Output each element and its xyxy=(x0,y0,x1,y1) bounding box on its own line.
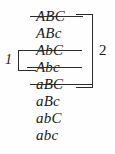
bracket-right-label: 2 xyxy=(99,42,107,59)
row-label: abc xyxy=(36,127,58,144)
table-row: abC xyxy=(0,110,115,127)
bracket-right-top-arm xyxy=(76,14,93,15)
bracket-right xyxy=(76,14,93,88)
enumeration-figure: ABC ABc AbC Abc aBC aBc abC abc 1 xyxy=(0,0,115,154)
bracket-left xyxy=(18,50,36,71)
row-label: abC xyxy=(36,110,62,127)
table-row: aBC xyxy=(0,76,115,93)
bracket-left-top-arm xyxy=(18,50,36,51)
bracket-left-label: 1 xyxy=(5,52,12,68)
row-label: ABc xyxy=(36,25,62,42)
row-label: aBc xyxy=(36,93,60,110)
table-row: aBc xyxy=(0,93,115,110)
bracket-left-bottom-arm xyxy=(18,70,36,71)
table-row: ABc xyxy=(0,25,115,42)
bracket-right-bottom-arm xyxy=(76,87,93,88)
table-row: abc xyxy=(0,127,115,144)
bracket-right-spine xyxy=(92,14,93,88)
table-row: ABC xyxy=(0,8,115,25)
bracket-left-spine xyxy=(18,50,19,71)
